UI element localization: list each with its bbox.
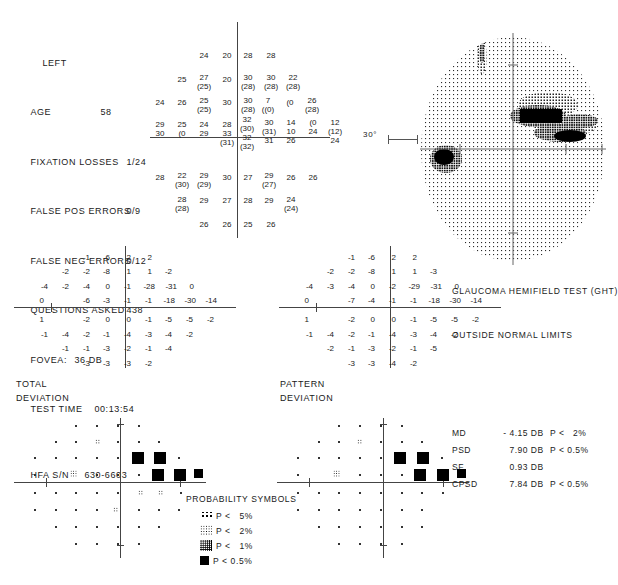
pd-plot-symbol	[359, 543, 361, 545]
pd-plot-symbol	[338, 492, 340, 494]
global-indices-table: MD- 4.15 DBP < 2%PSD7.90 DBP < 0.5%SF0.9…	[452, 428, 589, 496]
pd-plot-symbol	[318, 509, 320, 511]
pd-plot-horizontal-axis	[277, 482, 469, 483]
global-index-probability: P < 0.5%	[550, 445, 589, 455]
global-index-row: MD- 4.15 DBP < 2%	[452, 428, 589, 445]
global-index-unit: DB	[528, 479, 550, 489]
legend-row: P < 0.5%	[186, 553, 296, 568]
legend-row: P < 5%	[186, 508, 296, 523]
global-index-unit: DB	[528, 445, 550, 455]
pd-plot-symbol	[333, 470, 341, 478]
legend-symbol-p05	[200, 556, 209, 565]
pd-plot-symbol	[338, 441, 340, 443]
pd-plot-symbol	[297, 509, 299, 511]
pd-plot-symbol	[421, 526, 423, 528]
pd-plot-symbol	[441, 457, 443, 459]
legend-text: P < 1%	[216, 541, 253, 551]
pd-plot-symbol	[359, 457, 361, 459]
pd-plot-symbol	[297, 457, 299, 459]
pd-plot-symbol	[318, 457, 320, 459]
pd-plot-symbol	[338, 425, 340, 427]
pd-plot-symbol	[401, 425, 403, 427]
pd-plot-symbol	[338, 543, 340, 545]
global-index-value: - 4.15	[482, 428, 528, 438]
global-index-name: CPSD	[452, 479, 482, 489]
pd-plot-vertical-axis	[383, 418, 384, 558]
pd-plot-symbol	[380, 474, 382, 476]
pd-plot-symbol	[380, 441, 382, 443]
legend-title: PROBABILITY SYMBOLS	[186, 494, 296, 504]
global-index-unit: DB	[528, 428, 550, 438]
pd-plot-symbol	[414, 469, 426, 481]
legend-symbol-p5	[200, 512, 212, 519]
global-index-probability: P < 2%	[550, 428, 586, 438]
pd-plot-symbol	[401, 474, 403, 476]
pd-plot-symbol	[359, 492, 361, 494]
pd-plot-tick-left	[309, 478, 310, 487]
pd-plot-symbol	[401, 492, 403, 494]
global-index-probability: P < 0.5%	[550, 479, 589, 489]
pd-plot-symbol	[297, 474, 299, 476]
global-index-value: 7.90	[482, 445, 528, 455]
pd-plot-symbol	[380, 492, 382, 494]
pd-plot-symbol	[338, 509, 340, 511]
legend-symbol-p2	[200, 525, 212, 536]
pd-plot-symbol	[380, 425, 382, 427]
legend-rows: P < 5%P < 2%P < 1%P < 0.5%	[186, 508, 296, 568]
pd-plot-symbol	[318, 492, 320, 494]
pd-plot-symbol	[417, 452, 429, 464]
pd-plot-symbol	[380, 526, 382, 528]
pd-plot-symbol	[297, 492, 299, 494]
pd-plot-symbol	[421, 441, 423, 443]
global-index-unit: DB	[528, 462, 550, 472]
legend-text: P < 2%	[216, 526, 253, 536]
pd-plot-symbol	[318, 441, 320, 443]
global-index-row: PSD7.90 DBP < 0.5%	[452, 445, 589, 462]
pd-plot-symbol	[421, 492, 423, 494]
pd-plot-symbol	[357, 439, 362, 444]
global-index-name: MD	[452, 428, 482, 438]
pd-plot-symbol	[359, 425, 361, 427]
pd-plot-symbol	[421, 509, 423, 511]
pd-plot-symbol	[442, 492, 444, 494]
pd-plot-symbol	[401, 441, 403, 443]
global-index-name: SF	[452, 462, 482, 472]
legend-symbol-p1	[200, 540, 212, 551]
pd-plot-symbol	[380, 457, 382, 459]
pd-plot-symbol	[394, 452, 406, 464]
pd-plot-symbol	[401, 526, 403, 528]
legend-row: P < 1%	[186, 538, 296, 553]
legend-text: P < 5%	[216, 511, 253, 521]
pd-plot-symbol	[401, 509, 403, 511]
pd-plot-symbol	[401, 543, 403, 545]
pd-plot-symbol	[338, 526, 340, 528]
pd-plot-symbol	[338, 457, 340, 459]
global-index-value: 0.93	[482, 462, 528, 472]
legend-text: P < 0.5%	[213, 556, 252, 566]
pd-plot-symbol	[318, 526, 320, 528]
pd-plot-symbol	[359, 526, 361, 528]
global-index-row: SF0.93 DB	[452, 462, 589, 479]
pd-plot-symbol	[359, 509, 361, 511]
probability-symbols-legend: PROBABILITY SYMBOLS P < 5%P < 2%P < 1%P …	[186, 494, 296, 568]
global-index-name: PSD	[452, 445, 482, 455]
pd-plot-symbol	[437, 469, 449, 481]
pd-plot-symbol	[359, 474, 361, 476]
pd-plot-symbol	[380, 509, 382, 511]
global-index-value: 7.84	[482, 479, 528, 489]
pd-plot-symbol	[380, 543, 382, 545]
global-index-row: CPSD7.84 DBP < 0.5%	[452, 479, 589, 496]
pd-plot-tick-bottom	[380, 545, 387, 546]
legend-row: P < 2%	[186, 523, 296, 538]
